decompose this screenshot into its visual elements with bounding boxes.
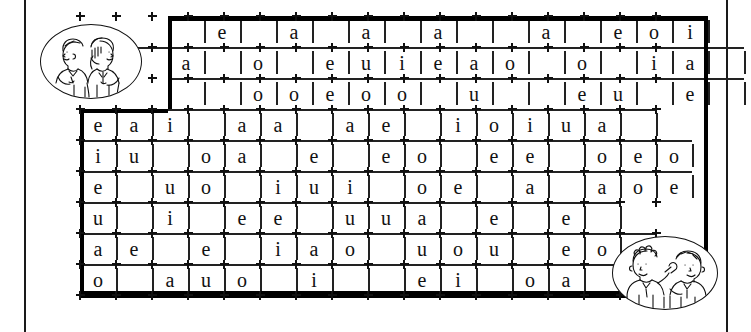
grid-cell[interactable]: a xyxy=(672,47,708,78)
grid-cell[interactable]: a xyxy=(296,233,332,264)
grid-tick xyxy=(403,12,405,21)
grid-cell[interactable]: e xyxy=(420,47,456,78)
grid-cell[interactable]: u xyxy=(368,202,404,233)
grid-cell[interactable]: i xyxy=(440,109,476,140)
grid-cell[interactable]: i xyxy=(296,264,332,295)
grid-cell[interactable]: e xyxy=(260,202,296,233)
grid-cell[interactable]: e xyxy=(116,233,152,264)
grid-cell[interactable]: o xyxy=(404,171,440,202)
grid-cell[interactable]: e xyxy=(440,171,476,202)
grid-cell[interactable]: a xyxy=(80,233,116,264)
grid-cell[interactable]: o xyxy=(492,47,528,78)
grid-cell[interactable]: o xyxy=(440,233,476,264)
grid-cell[interactable]: e xyxy=(368,140,404,171)
grid-cell[interactable]: i xyxy=(260,171,296,202)
grid-cell[interactable]: a xyxy=(404,202,440,233)
grid-cell[interactable]: a xyxy=(548,264,584,295)
grid-cell[interactable]: o xyxy=(476,109,512,140)
grid-cell[interactable]: a xyxy=(224,109,260,140)
grid-cell[interactable]: u xyxy=(476,233,512,264)
grid-cell[interactable]: o xyxy=(404,140,440,171)
grid-cell[interactable]: a xyxy=(332,109,368,140)
grid-rule-vertical xyxy=(476,175,478,198)
grid-cell[interactable]: o xyxy=(512,264,548,295)
grid-cell[interactable]: o xyxy=(188,171,224,202)
grid-cell[interactable]: o xyxy=(240,47,276,78)
grid-cell[interactable]: o xyxy=(584,140,620,171)
grid-rule-vertical xyxy=(744,51,746,74)
grid-cell-letter: e xyxy=(672,83,708,103)
grid-cell[interactable]: u xyxy=(548,109,584,140)
grid-cell[interactable]: o xyxy=(636,16,672,47)
grid-cell[interactable]: a xyxy=(528,16,564,47)
grid-cell[interactable]: o xyxy=(80,264,116,295)
grid-cell[interactable]: u xyxy=(348,47,384,78)
grid-cell[interactable]: u xyxy=(332,202,368,233)
grid-cell[interactable]: o xyxy=(188,140,224,171)
grid-cell[interactable]: a xyxy=(260,109,296,140)
grid-cell[interactable]: i xyxy=(384,47,420,78)
grid-cell[interactable]: i xyxy=(80,140,116,171)
grid-rule-vertical xyxy=(620,206,622,229)
grid-cell[interactable]: a xyxy=(512,171,548,202)
grid-cell[interactable]: i xyxy=(636,47,672,78)
grid-cell[interactable]: e xyxy=(368,109,404,140)
grid-rule-vertical xyxy=(116,268,118,291)
grid-cell[interactable]: o xyxy=(620,171,656,202)
grid-cell[interactable]: u xyxy=(188,264,224,295)
grid-cell[interactable]: o xyxy=(276,78,312,109)
crossword-grid[interactable]: eaaaaeoiaoeuieaooiaooeooueueeaiaaaeioiua… xyxy=(80,16,670,312)
grid-cell[interactable]: i xyxy=(152,109,188,140)
grid-cell[interactable]: o xyxy=(656,140,692,171)
grid-cell[interactable]: e xyxy=(548,233,584,264)
grid-cell[interactable]: o xyxy=(564,47,600,78)
grid-cell[interactable]: e xyxy=(600,16,636,47)
grid-cell[interactable]: a xyxy=(420,16,456,47)
grid-cell[interactable]: a xyxy=(168,47,204,78)
grid-cell[interactable]: a xyxy=(348,16,384,47)
grid-cell[interactable]: u xyxy=(80,202,116,233)
grid-cell[interactable]: o xyxy=(332,233,368,264)
grid-cell[interactable]: e xyxy=(656,171,692,202)
grid-cell[interactable]: u xyxy=(152,171,188,202)
grid-cell[interactable]: e xyxy=(548,202,584,233)
grid-cell[interactable]: a xyxy=(224,140,260,171)
grid-cell[interactable]: u xyxy=(296,171,332,202)
grid-cell[interactable]: o xyxy=(240,78,276,109)
grid-cell[interactable]: i xyxy=(152,202,188,233)
grid-cell[interactable]: o xyxy=(348,78,384,109)
grid-cell[interactable]: e xyxy=(80,109,116,140)
grid-cell[interactable]: a xyxy=(584,171,620,202)
grid-cell[interactable]: a xyxy=(456,47,492,78)
grid-cell[interactable]: e xyxy=(620,140,656,171)
grid-cell[interactable]: e xyxy=(312,78,348,109)
grid-cell[interactable]: e xyxy=(204,16,240,47)
grid-cell[interactable]: u xyxy=(456,78,492,109)
grid-cell[interactable]: i xyxy=(672,16,708,47)
grid-cell[interactable]: i xyxy=(512,109,548,140)
grid-cell[interactable]: e xyxy=(476,202,512,233)
grid-cell[interactable]: e xyxy=(296,140,332,171)
grid-cell[interactable]: e xyxy=(564,78,600,109)
grid-cell[interactable]: e xyxy=(312,47,348,78)
grid-cell[interactable]: e xyxy=(404,264,440,295)
grid-cell[interactable]: u xyxy=(600,78,636,109)
grid-cell[interactable]: e xyxy=(512,140,548,171)
grid-cell[interactable]: i xyxy=(332,171,368,202)
grid-cell[interactable]: o xyxy=(224,264,260,295)
grid-cell[interactable]: e xyxy=(80,171,116,202)
grid-cell[interactable]: a xyxy=(584,109,620,140)
grid-cell[interactable]: e xyxy=(476,140,512,171)
grid-cell[interactable]: i xyxy=(440,264,476,295)
grid-cell[interactable]: e xyxy=(224,202,260,233)
grid-cell[interactable]: a xyxy=(116,109,152,140)
grid-cell[interactable]: u xyxy=(116,140,152,171)
grid-cell[interactable]: e xyxy=(672,78,708,109)
grid-cell[interactable]: e xyxy=(188,233,224,264)
grid-cell[interactable]: a xyxy=(152,264,188,295)
grid-cell-letter: e xyxy=(116,238,152,258)
grid-cell[interactable]: i xyxy=(260,233,296,264)
grid-cell[interactable]: a xyxy=(276,16,312,47)
grid-cell[interactable]: u xyxy=(404,233,440,264)
grid-cell[interactable]: o xyxy=(384,78,420,109)
